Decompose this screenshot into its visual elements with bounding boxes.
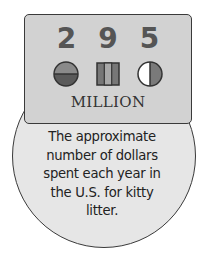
- caption-line: The approximate: [28, 128, 176, 147]
- three-bar-box-icon: [95, 61, 121, 87]
- stat-number: 2 9 5: [25, 25, 191, 53]
- digit-3: 5: [140, 25, 159, 53]
- symbol-row: [25, 61, 191, 87]
- caption-text: The approximate number of dollars spent …: [28, 128, 176, 221]
- half-filled-circle-horizontal-icon: [53, 61, 79, 87]
- digit-2: 9: [98, 25, 117, 53]
- caption-line: spent each year in: [28, 165, 176, 184]
- digit-1: 2: [57, 25, 76, 53]
- half-filled-circle-vertical-icon: [137, 61, 163, 87]
- caption-line: the U.S. for kitty: [28, 184, 176, 203]
- caption-line: litter.: [28, 202, 176, 221]
- caption-line: number of dollars: [28, 147, 176, 166]
- unit-label: MILLION: [25, 93, 191, 111]
- stat-card: 2 9 5 MILLION: [24, 14, 192, 124]
